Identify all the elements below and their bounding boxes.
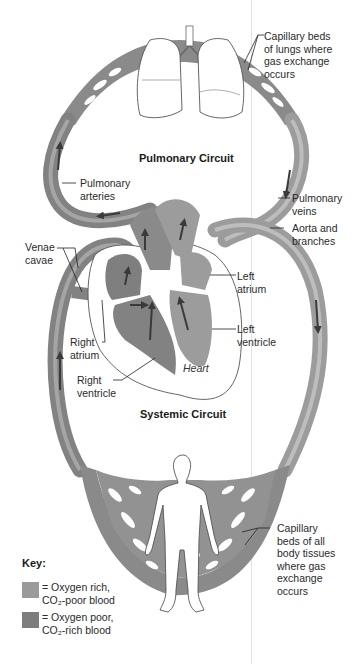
- swatch-oxygen-rich: [22, 582, 39, 598]
- label-right-atrium: Right atrium: [70, 336, 99, 361]
- label-heart: Heart: [183, 362, 209, 374]
- label-pulmonary-arteries: Pulmonary arteries: [80, 177, 130, 202]
- label-left-atrium: Left atrium: [237, 270, 266, 295]
- label-capillary-beds-body: Capillary beds of all body tissues where…: [277, 522, 335, 597]
- label-aorta-branches: Aorta and branches: [292, 222, 338, 247]
- key-item-oxygen-poor: = Oxygen poor, CO₂-rich blood: [22, 611, 114, 636]
- label-capillary-beds-lungs: Capillary beds of lungs where gas exchan…: [264, 30, 332, 80]
- key-item-oxygen-rich: = Oxygen rich, CO₂-poor blood: [22, 581, 115, 606]
- label-venae-cavae: Venae cavae: [25, 241, 55, 266]
- title-systemic-circuit: Systemic Circuit: [140, 408, 226, 420]
- label-pulmonary-veins: Pulmonary veins: [292, 192, 342, 217]
- label-left-ventricle: Left ventricle: [237, 323, 276, 348]
- swatch-oxygen-poor: [22, 612, 39, 628]
- title-pulmonary-circuit: Pulmonary Circuit: [139, 152, 234, 164]
- pulmonary-artery-vessel: [51, 120, 150, 221]
- key-text-oxygen-poor: = Oxygen poor, CO₂-rich blood: [42, 611, 114, 636]
- label-right-ventricle: Right ventricle: [77, 374, 116, 399]
- key-title: Key:: [22, 557, 46, 569]
- key-text-oxygen-rich: = Oxygen rich, CO₂-poor blood: [42, 581, 115, 606]
